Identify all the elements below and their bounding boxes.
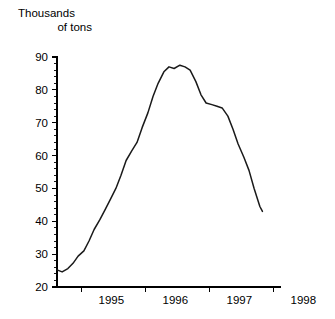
x-tick-label: 1998 xyxy=(291,294,317,306)
y-tick-label: 50 xyxy=(35,182,48,194)
x-tick-label: 1996 xyxy=(163,294,189,306)
data-series-line xyxy=(57,65,262,272)
line-chart-plot: 2030405060708090 1995199619971998 xyxy=(0,0,335,319)
y-tick-label: 40 xyxy=(35,215,48,227)
y-tick-label: 80 xyxy=(35,84,48,96)
y-tick-label: 20 xyxy=(35,281,48,293)
chart-container: Thousands of tons 2030405060708090 19951… xyxy=(0,0,335,319)
x-axis: 1995199619971998 xyxy=(57,287,316,306)
y-tick-label: 90 xyxy=(35,51,48,63)
y-tick-label: 70 xyxy=(35,117,48,129)
y-axis: 2030405060708090 xyxy=(35,51,57,293)
y-tick-label: 30 xyxy=(35,248,48,260)
x-tick-label: 1997 xyxy=(227,294,253,306)
x-tick-label: 1995 xyxy=(99,294,125,306)
y-tick-label: 60 xyxy=(35,150,48,162)
